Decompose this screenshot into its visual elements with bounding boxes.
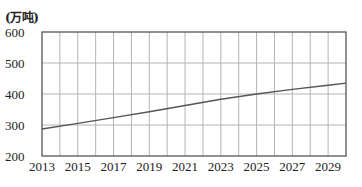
x-tick-label: 2025 — [244, 159, 270, 174]
x-tick-label: 2029 — [315, 159, 341, 174]
data-series — [42, 83, 346, 129]
y-axis-ticks: 200300400500600 — [5, 25, 25, 164]
x-tick-label: 2015 — [65, 159, 91, 174]
y-tick-label: 400 — [5, 87, 25, 102]
y-tick-label: 500 — [5, 56, 25, 71]
y-tick-label: 600 — [5, 25, 25, 40]
x-tick-label: 2013 — [29, 159, 55, 174]
y-tick-label: 300 — [5, 118, 25, 133]
x-tick-label: 2017 — [101, 159, 128, 174]
x-tick-label: 2019 — [136, 159, 162, 174]
series-line — [42, 83, 346, 129]
x-axis-ticks: 201320152017201920212023202520272029 — [29, 159, 341, 174]
x-tick-label: 2023 — [208, 159, 234, 174]
gridlines — [42, 32, 346, 156]
line-chart: 200300400500600 201320152017201920212023… — [0, 0, 362, 187]
x-tick-label: 2021 — [172, 159, 198, 174]
x-tick-label: 2027 — [279, 159, 306, 174]
y-tick-label: 200 — [5, 149, 25, 164]
